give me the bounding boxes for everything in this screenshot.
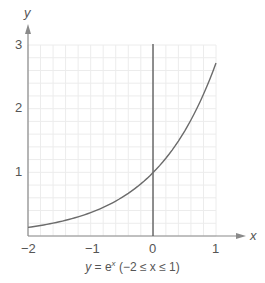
y-tick-3: 3	[15, 37, 22, 52]
grid-lines	[28, 45, 216, 236]
x-tick-1: 1	[212, 241, 219, 256]
y-tick-1: 1	[15, 164, 22, 179]
y-axis-label: y	[24, 5, 31, 20]
x-tick-minus-2: −2	[21, 241, 36, 256]
x-axis-arrow-icon	[236, 233, 246, 239]
chart-canvas	[0, 0, 265, 283]
y-tick-2: 2	[15, 100, 22, 115]
x-axis-label: x	[250, 228, 257, 243]
x-tick-0: 0	[149, 241, 156, 256]
chart-caption: y = ex (−2 ≤ x ≤ 1)	[0, 259, 265, 274]
exp-curve	[28, 63, 216, 227]
y-axis-arrow-icon	[25, 24, 31, 34]
x-tick-minus-1: −1	[85, 241, 100, 256]
